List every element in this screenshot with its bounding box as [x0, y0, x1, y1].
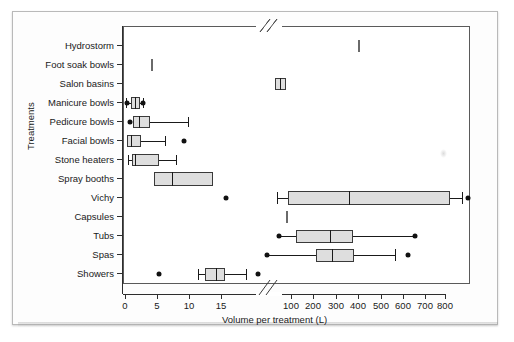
y-tick-5	[117, 140, 122, 141]
glyph-stone-heaters-cap-low	[128, 155, 129, 165]
glyph-tubs-box	[296, 230, 353, 243]
glyph-hydrostorm-single-value	[358, 40, 360, 52]
y-tick-label-spas: Spas	[92, 250, 114, 260]
x-tick-label-700: 700	[417, 300, 433, 311]
y-tick-11	[117, 254, 122, 255]
x-tick-label-15: 15	[216, 300, 227, 311]
scan-smudge	[440, 149, 447, 158]
glyph-spas-outlier-high	[406, 253, 411, 258]
figure-page: Hydrostorm Foot soak bowls Salon basins …	[0, 0, 514, 342]
y-tick-9	[117, 216, 122, 217]
glyph-tubs-outlier-high	[413, 234, 418, 239]
x-tick-300	[336, 294, 337, 299]
glyph-spas-outlier-low	[265, 253, 270, 258]
glyph-pedicure-bowls-outlier	[128, 120, 133, 125]
x-tick-5	[157, 294, 158, 299]
glyph-facial-bowls-outlier	[182, 139, 187, 144]
x-tick-800	[445, 294, 446, 299]
glyph-vichy-outlier-low	[224, 196, 229, 201]
x-tick-10	[189, 294, 190, 299]
x-tick-label-600: 600	[395, 300, 411, 311]
x-axis-title: Volume per treatment (L)	[222, 314, 327, 325]
x-tick-label-5: 5	[154, 300, 159, 311]
x-tick-0	[125, 294, 126, 299]
x-tick-600	[403, 294, 404, 299]
glyph-showers-cap-low	[198, 269, 199, 280]
y-tick-12	[117, 273, 122, 274]
y-axis-title: Treatments	[25, 102, 36, 150]
x-tick-label-800: 800	[437, 300, 453, 311]
glyph-pedicure-bowls-box	[133, 116, 150, 128]
glyph-tubs-median	[330, 230, 331, 243]
y-tick-8	[117, 197, 122, 198]
x-tick-label-100: 100	[283, 300, 299, 311]
x-tick-100	[291, 294, 292, 299]
glyph-foot-soak-bowls-single-value	[151, 59, 153, 71]
x-tick-500	[381, 294, 382, 299]
y-tick-label-facial-bowls: Facial bowls	[62, 136, 114, 146]
y-tick-1	[117, 64, 122, 65]
y-tick-3	[117, 102, 122, 103]
x-tick-label-400: 400	[350, 300, 366, 311]
y-tick-4	[117, 121, 122, 122]
x-tick-label-500: 500	[373, 300, 389, 311]
plot-inner	[124, 27, 469, 283]
y-tick-label-foot-soak-bowls: Foot soak bowls	[45, 60, 114, 70]
glyph-pedicure-bowls-median	[139, 116, 140, 128]
glyph-spray-booths-box	[154, 172, 213, 186]
glyph-vichy-cap-low	[277, 192, 278, 204]
glyph-vichy-box	[288, 191, 450, 205]
x-tick-label-0: 0	[122, 300, 127, 311]
y-tick-6	[117, 159, 122, 160]
glyph-showers-box	[205, 268, 225, 281]
glyph-stone-heaters-cap-high	[176, 155, 177, 165]
x-tick-15	[221, 294, 222, 299]
y-tick-label-pedicure-bowls: Pedicure bowls	[50, 117, 114, 127]
y-axis-labels: Hydrostorm Foot soak bowls Salon basins …	[0, 0, 114, 342]
axis-break-bottom-icon	[256, 278, 282, 296]
glyph-facial-bowls-cap-high	[165, 136, 166, 146]
glyph-vichy-outlier-high	[466, 196, 471, 201]
y-tick-label-stone-heaters: Stone heaters	[55, 155, 114, 165]
y-tick-label-hydrostorm: Hydrostorm	[65, 41, 114, 51]
glyph-showers-cap-high	[246, 269, 247, 280]
glyph-manicure-bowls-outlier	[141, 101, 146, 106]
x-tick-400	[358, 294, 359, 299]
plot-panel	[123, 26, 470, 284]
y-tick-2	[117, 83, 122, 84]
y-tick-label-manicure-bowls: Manicure bowls	[48, 98, 114, 108]
y-tick-0	[117, 45, 122, 46]
glyph-pedicure-bowls-cap-high	[188, 117, 189, 127]
y-tick-label-spray-booths: Spray booths	[58, 174, 114, 184]
glyph-showers-outlier-high	[256, 272, 261, 277]
y-tick-7	[117, 178, 122, 179]
glyph-showers-outlier-low	[157, 272, 162, 277]
glyph-stone-heaters-median	[135, 154, 136, 166]
y-tick-label-tubs: Tubs	[93, 231, 114, 241]
glyph-stone-heaters-box	[132, 154, 159, 166]
glyph-vichy-cap-high	[462, 192, 463, 204]
x-tick-label-10: 10	[184, 300, 195, 311]
y-tick-label-capsules: Capsules	[74, 212, 114, 222]
glyph-showers-median	[216, 268, 217, 281]
glyph-vichy-median	[349, 191, 350, 205]
glyph-manicure-bowls-median	[135, 97, 136, 109]
x-tick-label-200: 200	[305, 300, 321, 311]
glyph-facial-bowls-median	[131, 135, 132, 147]
y-tick-label-salon-basins: Salon basins	[60, 79, 114, 89]
y-tick-label-showers: Showers	[77, 269, 114, 279]
x-tick-700	[425, 294, 426, 299]
x-tick-label-300: 300	[328, 300, 344, 311]
glyph-capsules-single-value	[286, 211, 288, 223]
glyph-facial-bowls-box	[127, 135, 141, 147]
axis-break-top-icon	[256, 18, 282, 34]
glyph-spray-booths-median	[172, 172, 173, 186]
y-tick-label-vichy: Vichy	[91, 193, 114, 203]
y-tick-10	[117, 235, 122, 236]
glyph-manicure-bowls-outlier	[125, 101, 130, 106]
glyph-tubs-outlier-low	[277, 234, 282, 239]
glyph-salon-basins-median	[280, 78, 281, 90]
x-axis-line	[123, 294, 445, 295]
glyph-spas-median	[332, 249, 333, 262]
x-tick-200	[313, 294, 314, 299]
